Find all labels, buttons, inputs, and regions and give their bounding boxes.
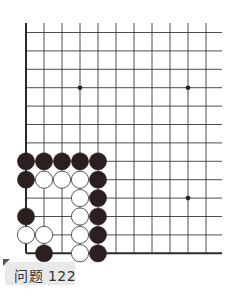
white-stone[interactable]: [71, 208, 88, 225]
black-stone[interactable]: [35, 245, 52, 262]
star-point-icon: [78, 85, 83, 90]
white-stone[interactable]: [71, 245, 88, 262]
white-stone[interactable]: [35, 171, 52, 188]
white-stone[interactable]: [71, 190, 88, 207]
board-grid: [26, 23, 222, 253]
black-stone[interactable]: [17, 153, 34, 170]
black-stone[interactable]: [17, 171, 34, 188]
white-stone[interactable]: [71, 171, 88, 188]
go-board: [0, 0, 239, 301]
black-stone[interactable]: [17, 208, 34, 225]
problem-label-text: 问题 122: [14, 265, 76, 285]
black-stone[interactable]: [89, 226, 106, 243]
black-stone[interactable]: [89, 190, 106, 207]
star-point-icon: [186, 196, 191, 201]
white-stone[interactable]: [17, 226, 34, 243]
black-stone[interactable]: [89, 171, 106, 188]
white-stone[interactable]: [71, 226, 88, 243]
star-point-icon: [186, 85, 191, 90]
problem-label: 问题 122: [5, 262, 75, 285]
black-stone[interactable]: [35, 153, 52, 170]
black-stone[interactable]: [53, 153, 70, 170]
white-stone[interactable]: [35, 226, 52, 243]
black-stone[interactable]: [71, 153, 88, 170]
black-stone[interactable]: [89, 245, 106, 262]
black-stone[interactable]: [89, 153, 106, 170]
white-stone[interactable]: [53, 171, 70, 188]
black-stone[interactable]: [89, 208, 106, 225]
